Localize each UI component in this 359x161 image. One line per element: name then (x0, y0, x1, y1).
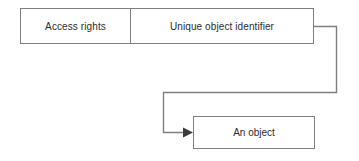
target-object-label: An object (233, 127, 275, 138)
field-access-rights-label: Access rights (45, 21, 106, 32)
target-object-box: An object (193, 116, 315, 149)
field-access-rights: Access rights (21, 9, 131, 43)
connector-arrowhead-icon (183, 128, 193, 138)
field-unique-object-identifier: Unique object identifier (131, 9, 313, 43)
field-unique-object-identifier-label: Unique object identifier (170, 21, 274, 32)
capability-record-box: Access rights Unique object identifier (20, 8, 314, 44)
diagram-canvas: Access rights Unique object identifier A… (0, 0, 359, 161)
